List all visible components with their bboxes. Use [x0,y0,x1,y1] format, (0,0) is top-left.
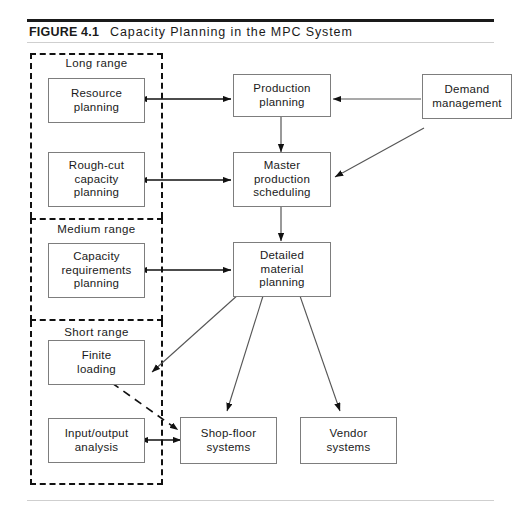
figure-container: FIGURE 4.1Capacity Planning in the MPC S… [0,0,521,519]
node-line-2: planning [259,96,304,110]
node-line-2: loading [77,363,116,377]
node-line-1: Resource [71,87,122,101]
figure-bottom-rule [27,500,494,501]
node-line-3: planning [259,276,304,290]
node-line-2: production [254,173,310,187]
node-resource-planning-text: Resource planning [48,78,145,123]
figure-number: FIGURE 4.1 [29,25,99,39]
node-line-2: material [261,263,304,277]
node-line-1: Detailed [260,249,304,263]
node-line-2: requirements [61,264,131,278]
caption-bottom-rule [27,42,494,43]
connector-demand-mps [335,128,424,177]
node-line-3: planning [74,186,119,200]
node-line-3: planning [74,277,119,291]
node-line-1: Master [264,159,301,173]
page-title: Capacity Planning in the MPC System [110,25,353,39]
node-line-1: Shop-floor [201,427,257,441]
node-demand-management[interactable]: Demand management [422,74,512,119]
node-master-production-scheduling[interactable]: Master production scheduling [233,152,331,207]
range-label-long: Long range [30,57,163,69]
connector-dmp-shopfloor [227,296,263,411]
connector-dmp-finite [152,294,239,372]
node-line-2: capacity [74,173,118,187]
node-finite-loading[interactable]: Finite loading [48,340,145,385]
node-vendor-systems[interactable]: Vendor systems [300,417,397,464]
connector-dmp-vendor [300,296,340,411]
node-line-2: management [432,97,502,111]
range-label-medium: Medium range [30,223,163,235]
node-detailed-material-planning[interactable]: Detailed material planning [233,242,331,297]
node-line-1: Production [253,82,310,96]
node-line-2: systems [327,441,371,455]
caption-top-rule [27,19,494,22]
range-label-short: Short range [30,326,163,338]
node-line-1: Rough-cut [69,159,124,173]
node-line-1: Demand [445,83,490,97]
node-capacity-requirements-planning[interactable]: Capacity requirements planning [48,243,145,298]
node-line-2: systems [207,441,251,455]
node-line-1: Vendor [330,427,368,441]
node-line-2: planning [74,101,119,115]
node-input-output-analysis[interactable]: Input/output analysis [48,418,145,463]
figure-caption: FIGURE 4.1Capacity Planning in the MPC S… [29,24,353,40]
node-rough-cut-capacity-planning[interactable]: Rough-cut capacity planning [48,152,145,207]
node-line-3: scheduling [253,186,310,200]
node-line-1: Finite [82,349,112,363]
node-line-1: Input/output [65,427,129,441]
node-line-2: analysis [75,441,119,455]
node-production-planning[interactable]: Production planning [233,74,331,117]
node-line-1: Capacity [73,250,120,264]
node-shop-floor-systems[interactable]: Shop-floor systems [180,417,277,464]
